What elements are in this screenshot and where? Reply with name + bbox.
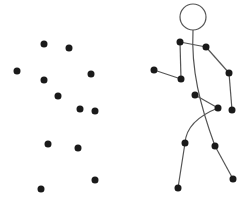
joint-right-elbow — [226, 70, 233, 77]
limb-left-hip-right-hip — [195, 95, 218, 108]
figure-head — [180, 4, 206, 30]
scatter-dot — [75, 145, 82, 152]
joint-right-shoulder — [203, 44, 210, 51]
scatter-dot — [41, 77, 48, 84]
joint-right-hip — [215, 105, 222, 112]
joint-left-hip — [192, 92, 199, 99]
limb-right-shoulder-right-elbow — [206, 47, 229, 73]
scatter-dot — [92, 177, 99, 184]
limb-right-elbow-right-hand — [229, 73, 232, 110]
joint-left-knee — [182, 140, 189, 147]
joint-right-knee — [212, 143, 219, 150]
joint-left-elbow — [178, 76, 185, 83]
scatter-dot — [88, 71, 95, 78]
joint-left-shoulder — [177, 39, 184, 46]
scatter-dot — [14, 68, 21, 75]
limb-right-knee-right-foot — [215, 146, 233, 179]
limb-left-shoulder-left-elbow — [180, 42, 181, 79]
stick-figure — [151, 4, 237, 192]
joint-right-hand — [229, 107, 236, 114]
limb-left-knee-left-foot — [178, 143, 185, 188]
joint-left-hand — [151, 67, 158, 74]
scatter-dot — [77, 106, 84, 113]
scatter-dot — [41, 41, 48, 48]
stick-figure-diagram — [0, 0, 245, 204]
scatter-dot — [55, 93, 62, 100]
scatter-dot — [45, 141, 52, 148]
thigh-curve — [185, 108, 218, 143]
scatter-dot — [92, 108, 99, 115]
joint-left-foot — [175, 185, 182, 192]
limb-left-elbow-left-hand — [154, 70, 181, 79]
scattered-dots — [14, 41, 99, 193]
joint-right-foot — [230, 176, 237, 183]
scatter-dot — [38, 186, 45, 193]
scatter-dot — [66, 45, 73, 52]
